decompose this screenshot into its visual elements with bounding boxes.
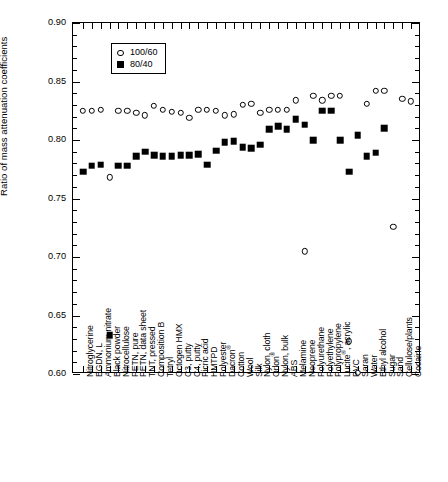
data-point-80-40 <box>213 147 220 154</box>
data-point-100-60 <box>222 112 228 118</box>
x-axis-tick-top <box>207 23 208 29</box>
x-axis-tick-top <box>101 23 102 29</box>
y-axis-minor-tick <box>415 93 419 94</box>
data-point-100-60 <box>390 223 396 229</box>
y-axis-minor-tick <box>415 175 419 176</box>
x-axis-tick-top <box>358 23 359 29</box>
data-point-80-40 <box>239 144 246 151</box>
y-axis-tick <box>412 199 419 200</box>
data-point-100-60 <box>248 101 254 107</box>
y-axis-minor-tick <box>73 152 77 153</box>
data-point-80-40 <box>222 139 229 146</box>
y-axis-minor-tick <box>73 304 77 305</box>
data-point-80-40 <box>266 126 273 133</box>
x-axis-tick-top <box>269 23 270 29</box>
data-point-100-60 <box>213 108 219 114</box>
data-point-80-40 <box>133 153 140 160</box>
y-axis-tick <box>412 23 419 24</box>
data-point-80-40 <box>346 168 353 175</box>
y-axis-title: Ratio of mass attenuation coefficients <box>0 37 9 196</box>
y-axis-minor-tick <box>415 327 419 328</box>
data-point-80-40 <box>275 123 282 130</box>
x-axis-tick-top <box>251 23 252 29</box>
y-axis-tick <box>73 199 80 200</box>
y-axis-minor-tick <box>73 292 77 293</box>
y-axis-minor-tick <box>415 163 419 164</box>
x-axis-tick-top <box>340 23 341 29</box>
x-axis-tick-top <box>367 23 368 29</box>
y-axis-tick-label: 0.65 <box>26 310 66 320</box>
x-axis-tick-top <box>181 23 182 29</box>
data-point-80-40 <box>177 152 184 159</box>
data-point-100-60 <box>399 96 405 102</box>
y-axis-tick <box>73 140 80 141</box>
data-point-80-40 <box>89 162 96 169</box>
y-axis-minor-tick <box>415 280 419 281</box>
x-axis-tick-top <box>216 23 217 29</box>
data-point-100-60 <box>408 98 414 104</box>
y-axis-minor-tick <box>415 117 419 118</box>
data-point-80-40 <box>124 162 131 169</box>
data-point-80-40 <box>337 137 344 144</box>
data-point-100-60 <box>186 115 192 121</box>
data-point-80-40 <box>257 141 264 148</box>
y-axis-tick-label: 0.90 <box>26 17 66 27</box>
data-point-100-60 <box>195 106 201 112</box>
y-axis-minor-tick <box>73 269 77 270</box>
data-point-80-40 <box>292 116 299 123</box>
data-point-100-60 <box>275 106 281 112</box>
x-axis-tick-top <box>331 23 332 29</box>
x-axis-tick-top <box>349 23 350 29</box>
x-axis-tick-top <box>189 23 190 29</box>
x-axis-tick-top <box>172 23 173 29</box>
data-point-100-60 <box>381 88 387 94</box>
data-point-100-60 <box>89 108 95 114</box>
y-axis-tick <box>73 82 80 83</box>
y-axis-minor-tick <box>415 58 419 59</box>
data-point-100-60 <box>142 112 148 118</box>
data-point-100-60 <box>310 92 316 98</box>
x-axis-tick-top <box>225 23 226 29</box>
y-axis-tick <box>73 374 80 375</box>
x-axis-tick-top <box>393 23 394 29</box>
data-point-100-60 <box>337 92 343 98</box>
data-point-100-60 <box>363 101 369 107</box>
data-point-80-40 <box>363 153 370 160</box>
x-axis-tick-top <box>145 23 146 29</box>
data-point-100-60 <box>151 103 157 109</box>
y-axis-minor-tick <box>73 58 77 59</box>
y-axis-tick-label: 0.80 <box>26 134 66 144</box>
y-axis-tick-label: 0.85 <box>26 76 66 86</box>
y-axis-minor-tick <box>73 46 77 47</box>
data-point-80-40 <box>319 107 326 114</box>
y-axis-tick-label: 0.70 <box>26 251 66 261</box>
data-point-80-40 <box>230 138 237 145</box>
data-point-100-60 <box>266 106 272 112</box>
y-axis-minor-tick <box>73 234 77 235</box>
x-axis-tick-label: Cocaine <box>413 346 423 377</box>
data-point-100-60 <box>319 97 325 103</box>
data-point-80-40 <box>310 137 317 144</box>
data-point-100-60 <box>124 108 130 114</box>
y-axis-minor-tick <box>73 222 77 223</box>
y-axis-minor-tick <box>415 304 419 305</box>
data-point-80-40 <box>97 161 104 168</box>
x-axis-tick-top <box>296 23 297 29</box>
data-point-80-40 <box>159 153 166 160</box>
y-axis-minor-tick <box>73 117 77 118</box>
data-point-100-60 <box>160 106 166 112</box>
data-point-80-40 <box>381 125 388 132</box>
plot-area: 100/60 80/40 <box>72 22 420 373</box>
y-axis-minor-tick <box>73 128 77 129</box>
filled-square-icon <box>116 61 125 68</box>
x-axis-tick-top <box>384 23 385 29</box>
y-axis-minor-tick <box>73 163 77 164</box>
legend-entry-80-40: 80/40 <box>116 59 158 71</box>
data-point-100-60 <box>168 109 174 115</box>
y-axis-minor-tick <box>415 128 419 129</box>
legend-label-100-60: 100/60 <box>130 47 158 59</box>
y-axis-minor-tick <box>73 93 77 94</box>
y-axis-minor-tick <box>73 245 77 246</box>
data-point-80-40 <box>284 126 291 133</box>
x-axis-tick-top <box>110 23 111 29</box>
